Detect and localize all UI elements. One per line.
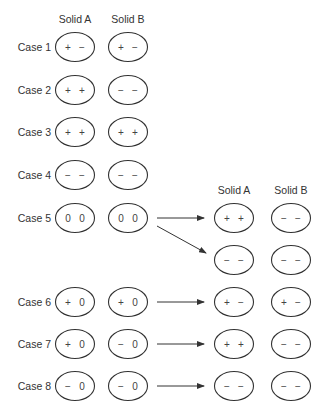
case-label: Case 4 (18, 169, 51, 181)
solid-b-result: −− (272, 204, 311, 233)
charge-right: − (238, 297, 244, 308)
solid-a-result: ++ (215, 330, 254, 359)
solid-b-initial: −− (109, 76, 148, 105)
solid-b-initial: +− (109, 33, 148, 62)
case-row-5: Case 50000++−−−−−− (18, 204, 311, 275)
charge-right: − (295, 213, 301, 224)
charge-right: − (79, 42, 85, 53)
ellipse-outline (272, 330, 311, 359)
charge-right: 0 (79, 339, 85, 350)
charge-right: + (79, 127, 85, 138)
charge-left: − (281, 339, 287, 350)
solid-a-initial: ++ (56, 76, 95, 105)
charge-right: − (238, 255, 244, 266)
case-row-1: Case 1+−+− (18, 33, 148, 62)
ellipse-outline (56, 33, 95, 62)
case-label: Case 6 (18, 296, 51, 308)
solid-b-initial: +0 (109, 288, 148, 317)
ellipse-outline (56, 330, 95, 359)
charge-right: 0 (132, 381, 138, 392)
ellipse-outline (272, 204, 311, 233)
ellipse-outline (109, 76, 148, 105)
ellipse-outline (109, 330, 148, 359)
ellipse-outline (215, 204, 254, 233)
solid-a-initial: −− (56, 161, 95, 190)
charge-right: + (238, 339, 244, 350)
charge-left: + (65, 339, 71, 350)
charge-right: + (132, 127, 138, 138)
ellipse-outline (56, 372, 95, 401)
charge-right: − (79, 170, 85, 181)
charge-left: + (65, 85, 71, 96)
ellipse-outline (109, 372, 148, 401)
charge-left: + (65, 42, 71, 53)
charge-left: 0 (65, 213, 71, 224)
ellipse-outline (109, 288, 148, 317)
charge-right: − (295, 297, 301, 308)
charge-left: − (224, 255, 230, 266)
ellipse-outline (109, 33, 148, 62)
ellipse-outline (215, 246, 254, 275)
charge-right: 0 (79, 381, 85, 392)
case-label: Case 7 (18, 338, 51, 350)
ellipse-outline (56, 161, 95, 190)
charge-diagram: Solid A Solid B Solid A Solid B Case 1+−… (0, 0, 327, 418)
arrow-case5-to-result2 (157, 226, 206, 253)
ellipse-outline (272, 246, 311, 275)
case-row-4: Case 4−−−− (18, 161, 148, 190)
solid-a-initial: +0 (56, 330, 95, 359)
charge-left: + (118, 42, 124, 53)
solid-a-initial: +0 (56, 288, 95, 317)
ellipse-outline (56, 76, 95, 105)
charge-right: − (295, 255, 301, 266)
ellipse-outline (56, 204, 95, 233)
charge-right: 0 (79, 297, 85, 308)
solid-a-initial: ++ (56, 118, 95, 147)
case-row-3: Case 3++++ (18, 118, 148, 147)
ellipse-outline (215, 288, 254, 317)
solid-a-initial: −0 (56, 372, 95, 401)
ellipse-outline (272, 288, 311, 317)
case-label: Case 2 (18, 84, 51, 96)
ellipse-outline (109, 161, 148, 190)
charge-right: 0 (132, 297, 138, 308)
ellipse-outline (215, 372, 254, 401)
charge-right: + (238, 213, 244, 224)
charge-left: + (118, 127, 124, 138)
case-label: Case 8 (18, 380, 51, 392)
charge-left: + (118, 297, 124, 308)
charge-left: − (224, 381, 230, 392)
ellipse-outline (272, 372, 311, 401)
charge-left: + (65, 297, 71, 308)
case-label: Case 3 (18, 126, 51, 138)
charge-left: − (281, 381, 287, 392)
solid-b-initial: 00 (109, 204, 148, 233)
header-solid-a: Solid A (59, 13, 92, 25)
charge-left: − (118, 170, 124, 181)
result-header-solid-a: Solid A (218, 184, 251, 196)
charge-left: − (118, 339, 124, 350)
solid-a-result: +− (215, 288, 254, 317)
charge-left: − (118, 85, 124, 96)
solid-a-result: ++ (215, 204, 254, 233)
solid-b-initial: −0 (109, 330, 148, 359)
case-label: Case 5 (18, 212, 51, 224)
charge-left: + (281, 297, 287, 308)
solid-b-initial: −− (109, 161, 148, 190)
solid-a-result: −− (215, 246, 254, 275)
ellipse-outline (215, 330, 254, 359)
solid-b-result: −− (272, 372, 311, 401)
charge-left: + (224, 339, 230, 350)
ellipse-outline (109, 118, 148, 147)
charge-right: − (238, 381, 244, 392)
header-solid-b: Solid B (111, 13, 144, 25)
charge-left: − (118, 381, 124, 392)
solid-b-result: −− (272, 246, 311, 275)
solid-b-result: −− (272, 330, 311, 359)
solid-a-result: −− (215, 372, 254, 401)
solid-b-initial: −0 (109, 372, 148, 401)
charge-right: + (79, 85, 85, 96)
charge-left: 0 (118, 213, 124, 224)
charge-right: − (295, 339, 301, 350)
charge-right: − (132, 170, 138, 181)
